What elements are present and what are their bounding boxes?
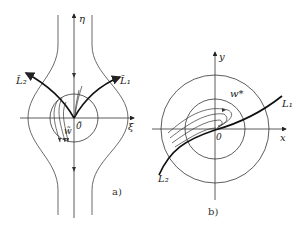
diagram-canvas: η ξ 0̃ L̃₁ L̃₂ w̃ a) y x 0 L₁ L₂ w* b)	[0, 0, 304, 229]
x-axis-label: x	[280, 132, 286, 143]
y-axis-label: y	[218, 51, 225, 62]
region-label-b: w*	[230, 88, 244, 99]
caption-b: b)	[208, 206, 218, 217]
figure-a: η ξ 0̃ L̃₁ L̃₂ w̃ a)	[15, 13, 134, 218]
caption-a: a)	[112, 186, 122, 197]
l2-label-b: L₂	[157, 173, 169, 184]
origin-label-b: 0	[216, 132, 222, 142]
region-label-a: w̃	[64, 126, 72, 136]
left-boundary-curve	[28, 15, 58, 215]
l1-label-a: L̃₁	[119, 75, 131, 86]
origin-label-a: 0̃	[76, 121, 82, 131]
l2-label-a: L̃₂	[15, 75, 27, 86]
l1-label-b: L₁	[281, 98, 293, 109]
xi-axis-label: ξ	[128, 121, 134, 132]
eta-axis-label: η	[79, 13, 85, 24]
right-boundary-curve	[92, 15, 128, 215]
figure-b: y x 0 L₁ L₂ w* b)	[152, 51, 293, 217]
